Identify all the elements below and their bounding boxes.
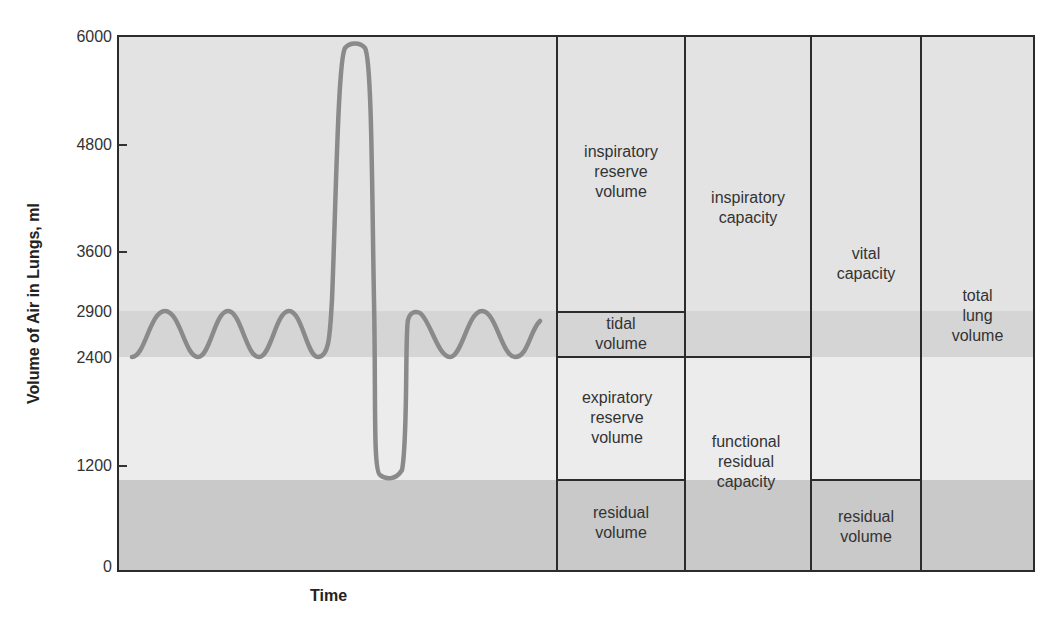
divider-tv-erv <box>557 356 811 358</box>
column-divider-1 <box>556 36 558 572</box>
y-tick-0: 0 <box>52 559 112 575</box>
y-tick-2900: 2900 <box>52 304 112 320</box>
y-tick-6000: 6000 <box>52 29 112 45</box>
y-tick-mark-3600 <box>118 251 127 253</box>
y-tick-4800: 4800 <box>52 137 112 153</box>
label-residual-volume-1: residual volume <box>557 503 685 543</box>
y-tick-mark-4800 <box>118 144 127 146</box>
y-axis-line <box>117 36 119 572</box>
label-residual-volume-2: residual volume <box>811 507 921 547</box>
x-axis-line <box>117 570 1035 572</box>
divider-irv-tv <box>557 311 685 313</box>
divider-erv-rv <box>557 479 685 481</box>
y-axis-title: Volume of Air in Lungs, ml <box>25 204 43 404</box>
label-functional-residual-capacity: functional residual capacity <box>683 432 809 492</box>
label-total-lung-volume: total lung volume <box>921 286 1034 346</box>
label-inspiratory-capacity: inspiratory capacity <box>685 188 811 228</box>
y-tick-1200: 1200 <box>52 458 112 474</box>
label-expiratory-reserve-volume: expiratory reserve volume <box>553 388 681 448</box>
y-tick-2400: 2400 <box>52 350 112 366</box>
y-tick-mark-1200 <box>118 465 127 467</box>
label-vital-capacity: vital capacity <box>811 244 921 284</box>
label-tidal-volume: tidal volume <box>557 314 685 354</box>
column-divider-3 <box>810 36 812 572</box>
divider-vc-rv <box>811 479 921 481</box>
y-tick-3600: 3600 <box>52 244 112 260</box>
x-axis-title: Time <box>310 587 347 605</box>
label-inspiratory-reserve-volume: inspiratory reserve volume <box>557 142 685 202</box>
top-border <box>117 35 1035 37</box>
